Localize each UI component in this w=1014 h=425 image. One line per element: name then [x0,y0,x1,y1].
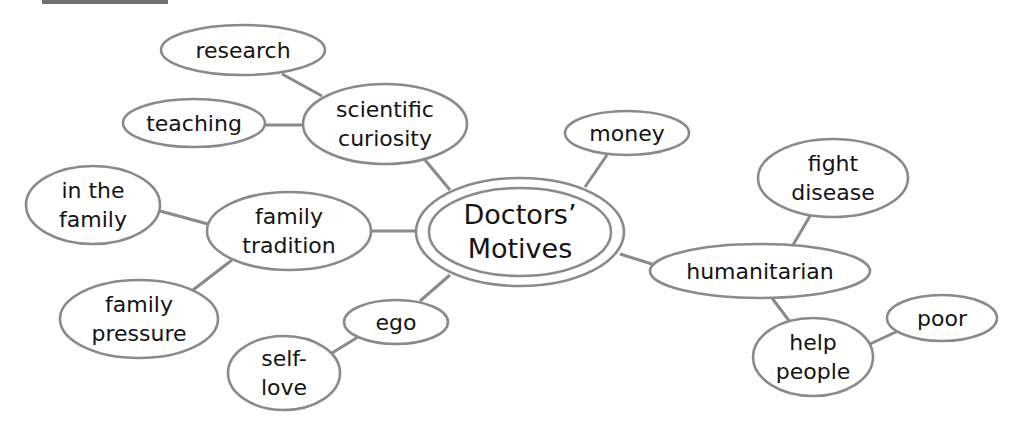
node-label: help [789,330,837,355]
node-label: research [195,38,290,63]
node-label: in the [61,178,124,203]
node-label: teaching [146,111,242,136]
node-help-people[interactable]: helppeople [753,318,873,396]
mind-map: researchteachingscientificcuriosityin th… [0,0,1014,425]
node-label: family [255,204,323,229]
edge-center-humanitarian [620,254,652,264]
node-fight-disease[interactable]: fightdisease [758,139,908,217]
center-node-doctors-motives[interactable]: Doctors’Motives [416,178,624,286]
node-label: people [776,359,851,384]
node-label: disease [791,180,875,205]
node-label: family [105,292,173,317]
node-label: love [261,375,307,400]
node-label: money [589,121,664,146]
node-research[interactable]: research [161,25,325,75]
node-family-tradition[interactable]: familytradition [207,192,371,270]
node-label: pressure [91,321,186,346]
node-poor[interactable]: poor [887,295,997,341]
node-scientific-curiosity[interactable]: scientificcuriosity [303,84,467,164]
edge-ego-self-love [332,337,358,353]
node-ego[interactable]: ego [344,300,448,344]
node-humanitarian[interactable]: humanitarian [650,244,870,298]
node-family-pressure[interactable]: familypressure [60,280,218,358]
node-label: humanitarian [686,259,834,284]
edge-scientific-curiosity-center [425,160,450,190]
node-label: scientific [336,97,434,122]
node-label: poor [917,306,968,331]
edge-help-people-poor [870,331,898,344]
edge-humanitarian-fight-disease [793,216,810,245]
node-label: family [59,207,127,232]
edge-center-ego [420,275,450,301]
edge-center-money [585,155,607,187]
node-label: Doctors’ [463,199,576,230]
node-label: ego [376,310,417,335]
edge-in-the-family-family-tradition [160,211,208,224]
node-label: tradition [242,233,335,258]
node-label: Motives [468,233,573,264]
node-money[interactable]: money [565,111,689,155]
node-label: self- [261,346,307,371]
edge-humanitarian-help-people [772,298,790,322]
edge-family-tradition-family-pressure [193,260,232,290]
edge-research-scientific-curiosity [282,74,322,96]
node-label: fight [808,151,859,176]
node-in-the-family[interactable]: in thefamily [26,166,160,244]
node-self-love[interactable]: self-love [228,336,340,410]
node-ellipse [303,84,467,164]
node-teaching[interactable]: teaching [123,99,265,147]
node-label: curiosity [338,126,432,151]
